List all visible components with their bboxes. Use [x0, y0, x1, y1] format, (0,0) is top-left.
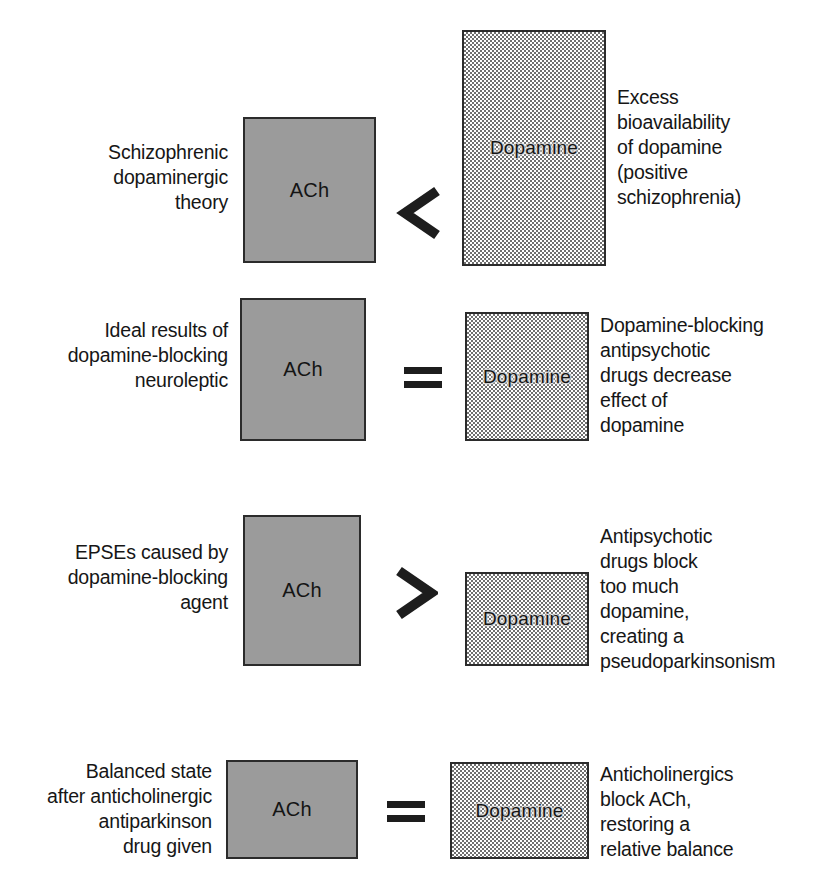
row-1-ach-box: ACh [243, 117, 376, 263]
row-4-right-caption: Anticholinergics block ACh, restoring a … [600, 762, 814, 862]
row-4-equals-icon [383, 782, 429, 838]
row-3-greater-than-icon [392, 565, 438, 621]
row-1-ach-label: ACh [290, 179, 330, 202]
row-3-ach-label: ACh [282, 579, 322, 602]
row-4-left-caption: Balanced state after anticholinergic ant… [0, 759, 212, 859]
row-3-right-caption: Antipsychotic drugs block too much dopam… [600, 524, 814, 674]
row-4-dopamine-label: Dopamine [475, 800, 563, 822]
row-2-dopamine-box: Dopamine [465, 312, 589, 441]
row-3-dopamine-label: Dopamine [483, 608, 571, 630]
row-1-dopamine-box: Dopamine [462, 30, 606, 266]
row-3-dopamine-box: Dopamine [465, 572, 589, 666]
row-1-right-caption: Excess bioavailability of dopamine (posi… [617, 85, 814, 210]
row-2-equals-icon [400, 348, 446, 404]
row-3-ach-box: ACh [243, 515, 361, 666]
row-2-left-caption: Ideal results of dopamine-blocking neuro… [0, 318, 228, 393]
ach-dopamine-balance-diagram: Schizophrenic dopaminergic theory ACh Do… [0, 0, 814, 888]
row-2-dopamine-label: Dopamine [483, 366, 571, 388]
row-4-ach-box: ACh [226, 760, 358, 859]
row-2-ach-label: ACh [283, 358, 323, 381]
row-2-ach-box: ACh [240, 298, 366, 441]
row-4-dopamine-box: Dopamine [450, 762, 589, 859]
row-1-less-than-icon [396, 185, 442, 241]
row-2-right-caption: Dopamine-blocking antipsychotic drugs de… [600, 313, 814, 438]
row-1-dopamine-label: Dopamine [490, 137, 578, 159]
row-1-left-caption: Schizophrenic dopaminergic theory [0, 140, 228, 215]
row-4-ach-label: ACh [272, 798, 312, 821]
row-3-left-caption: EPSEs caused by dopamine-blocking agent [0, 540, 228, 615]
